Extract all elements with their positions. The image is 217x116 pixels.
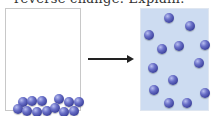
container-after	[140, 8, 209, 111]
particle-sphere	[174, 41, 184, 51]
particle-sphere	[32, 107, 42, 116]
particle-sphere	[157, 44, 167, 54]
particle-sphere	[200, 88, 210, 98]
particle-sphere	[200, 40, 210, 50]
particle-sphere	[185, 21, 195, 31]
particle-sphere	[149, 85, 159, 95]
particle-sphere	[194, 58, 204, 68]
particle-sphere	[164, 13, 174, 23]
particle-sphere	[22, 106, 32, 116]
arrow-head	[127, 55, 134, 63]
arrow-shaft	[88, 58, 128, 60]
particle-sphere	[164, 98, 174, 108]
particle-sphere	[148, 63, 158, 73]
particle-sphere	[182, 98, 192, 108]
particle-sphere	[27, 96, 37, 106]
particle-sphere	[168, 75, 178, 85]
particle-sphere	[59, 107, 69, 116]
particle-sphere	[144, 30, 154, 40]
particle-sphere	[37, 96, 47, 106]
container-before	[5, 8, 81, 111]
particle-sphere	[69, 106, 79, 116]
caption-text: reverse change. Explain.	[14, 0, 185, 6]
